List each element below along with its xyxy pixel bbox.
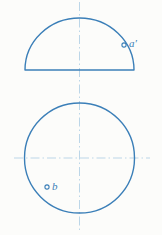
point-label-b: b	[52, 181, 58, 192]
technical-drawing-canvas: a′ b	[0, 0, 162, 235]
point-marker-a-prime	[122, 43, 126, 47]
drawing-surface	[0, 0, 162, 235]
point-label-a-prime: a′	[129, 38, 137, 49]
point-marker-b	[45, 185, 49, 189]
